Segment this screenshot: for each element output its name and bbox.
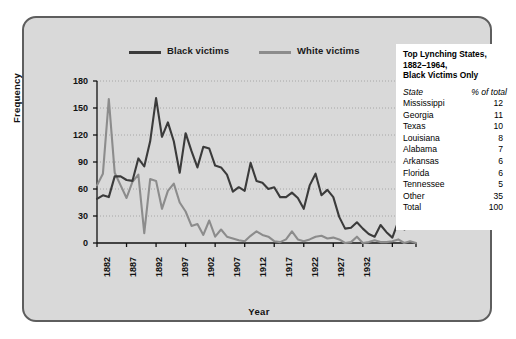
info-box-title: Top Lynching States, 1882–1964, Black Vi… xyxy=(403,49,507,81)
gridlines xyxy=(97,81,416,216)
info-box-header-row: State% of total xyxy=(403,87,507,99)
info-box-pct: 6 xyxy=(498,156,507,168)
info-box-pct: 5 xyxy=(498,179,507,191)
y-axis-title: Frequency xyxy=(11,38,22,158)
info-box-state: Texas xyxy=(403,121,425,133)
info-box-pct: 12 xyxy=(493,98,507,110)
info-box-row: Mississippi12 xyxy=(403,98,507,110)
info-box-state: Arkansas xyxy=(403,156,439,168)
info-box-pct: 6 xyxy=(498,168,507,180)
info-box-title-line-3: Black Victims Only xyxy=(403,70,507,81)
info-box-state: Georgia xyxy=(403,110,434,122)
info-box-state: Florida xyxy=(403,168,429,180)
info-box-state: Tennessee xyxy=(403,179,445,191)
info-box-row: Arkansas6 xyxy=(403,156,507,168)
chart-panel: Black victims White victims Frequency 18… xyxy=(22,16,492,322)
info-box-state: Mississippi xyxy=(403,98,445,110)
chart-figure: Black victims White victims Frequency 18… xyxy=(0,0,516,339)
info-box-row: Louisiana8 xyxy=(403,133,507,145)
info-box-table: State% of totalMississippi12Georgia11Tex… xyxy=(403,87,507,215)
series-line-black-victims xyxy=(97,98,416,238)
info-box-header-state: State xyxy=(403,87,423,99)
info-box-row: Georgia11 xyxy=(403,110,507,122)
info-box-row: Tennessee5 xyxy=(403,179,507,191)
info-box-row: Florida6 xyxy=(403,168,507,180)
info-box-state: Other xyxy=(403,191,425,203)
info-box-state: Louisiana xyxy=(403,133,440,145)
info-box-pct: 11 xyxy=(494,110,507,122)
info-box-header-pct: % of total xyxy=(471,87,507,99)
info-box-title-line-1: Top Lynching States, xyxy=(403,49,507,60)
info-box-state: Total xyxy=(403,202,421,214)
info-box-pct: 8 xyxy=(498,133,507,145)
info-box-pct: 35 xyxy=(493,191,507,203)
info-box-row: Alabama7 xyxy=(403,144,507,156)
info-box-pct: 100 xyxy=(489,202,507,214)
info-box-pct: 10 xyxy=(493,121,507,133)
series-line-white-victims xyxy=(97,99,416,243)
info-box-row: Texas10 xyxy=(403,121,507,133)
info-box-row: Other35 xyxy=(403,191,507,203)
info-box-row: Total100 xyxy=(403,202,507,214)
info-box-pct: 7 xyxy=(498,144,507,156)
info-box: Top Lynching States, 1882–1964, Black Vi… xyxy=(396,44,514,230)
info-box-state: Alabama xyxy=(403,144,437,156)
info-box-title-line-2: 1882–1964, xyxy=(403,60,507,71)
